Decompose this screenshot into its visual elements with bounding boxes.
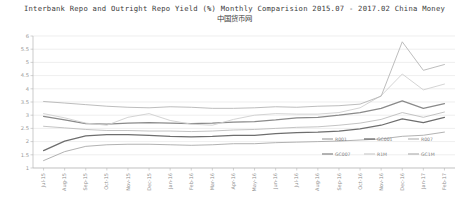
legend-label: R001 xyxy=(335,137,347,142)
x-axis-tick-label: Oct-16 xyxy=(357,173,363,190)
legend-label: GC007 xyxy=(335,152,351,157)
x-axis-tick-label: May-16 xyxy=(251,173,258,191)
chart-container: Interbank Repo and Outright Repo Yield (… xyxy=(0,0,469,200)
x-axis-tick-label: Feb-16 xyxy=(188,173,194,190)
x-axis-tick-label: Dec-15 xyxy=(146,173,152,191)
x-tick-marks xyxy=(44,168,445,171)
legend-label: GC001 xyxy=(377,137,393,142)
x-axis-tick-label: Jul-16 xyxy=(293,173,299,188)
chart-legend: R001GC001R007GC007R1MGC1M xyxy=(322,137,435,157)
x-tick-labels: Jul-15Aug-15Sep-15Oct-15Nov-15Dec-15Jan-… xyxy=(40,173,447,191)
y-axis-tick-label: 4 xyxy=(26,86,30,92)
y-axis-tick-label: 5.5 xyxy=(21,46,29,52)
y-axis-tick-label: 1 xyxy=(26,165,29,171)
y-axis-tick-label: 6 xyxy=(26,33,29,39)
legend-label: R1M xyxy=(377,152,387,157)
y-axis-tick-label: 1.5 xyxy=(21,152,29,158)
x-axis-tick-label: Mar-16 xyxy=(209,173,215,190)
x-axis-tick-label: Aug-15 xyxy=(61,173,68,191)
x-axis-tick-label: Jul-15 xyxy=(40,173,46,188)
y-axis-tick-label: 2.5 xyxy=(21,125,29,131)
x-axis-tick-label: Feb-17 xyxy=(441,173,447,190)
x-axis-tick-label: Jan-16 xyxy=(167,173,173,190)
y-tick-labels: 11.522.533.544.555.56 xyxy=(21,33,33,171)
legend-label: R007 xyxy=(421,137,433,142)
legend-label: GC1M xyxy=(421,152,435,157)
x-axis-tick-label: Sep-16 xyxy=(336,173,343,191)
x-axis-tick-label: Nov-16 xyxy=(378,173,384,191)
data-series-group xyxy=(44,42,445,161)
data-series-line xyxy=(44,101,445,124)
x-axis-tick-label: Jan-17 xyxy=(420,173,426,190)
y-axis-tick-label: 3.5 xyxy=(21,99,29,105)
x-axis-tick-label: Sep-15 xyxy=(82,173,89,191)
x-axis-tick-label: Apr-16 xyxy=(230,173,237,190)
chart-plot: 11.522.533.544.555.56 Jul-15Aug-15Sep-15… xyxy=(0,0,469,200)
x-axis-tick-label: Dec-16 xyxy=(399,173,405,191)
y-axis-tick-label: 3 xyxy=(26,112,29,118)
x-axis-tick-label: Jun-16 xyxy=(272,173,278,190)
y-axis-tick-label: 4.5 xyxy=(21,72,29,78)
data-series-line xyxy=(44,74,445,125)
y-axis-tick-label: 2 xyxy=(26,138,29,144)
x-axis-tick-label: Nov-15 xyxy=(125,173,131,191)
grid-lines xyxy=(33,36,455,168)
x-axis-tick-label: Aug-16 xyxy=(314,173,321,191)
data-series-line xyxy=(44,42,445,109)
x-axis-tick-label: Oct-15 xyxy=(103,173,109,190)
y-axis-tick-label: 5 xyxy=(26,59,29,65)
